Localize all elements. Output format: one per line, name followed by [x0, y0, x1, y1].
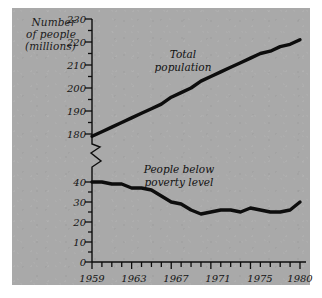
- chart-axes: [85, 19, 306, 269]
- total-population-line: [92, 40, 300, 137]
- y-axis-break-symbol: [91, 140, 101, 176]
- poverty-level-line: [92, 182, 300, 214]
- chart-plot-svg: [0, 0, 322, 298]
- chart-figure: Number of people (millions) 230 220 210 …: [0, 0, 322, 298]
- chart-series: [92, 40, 300, 214]
